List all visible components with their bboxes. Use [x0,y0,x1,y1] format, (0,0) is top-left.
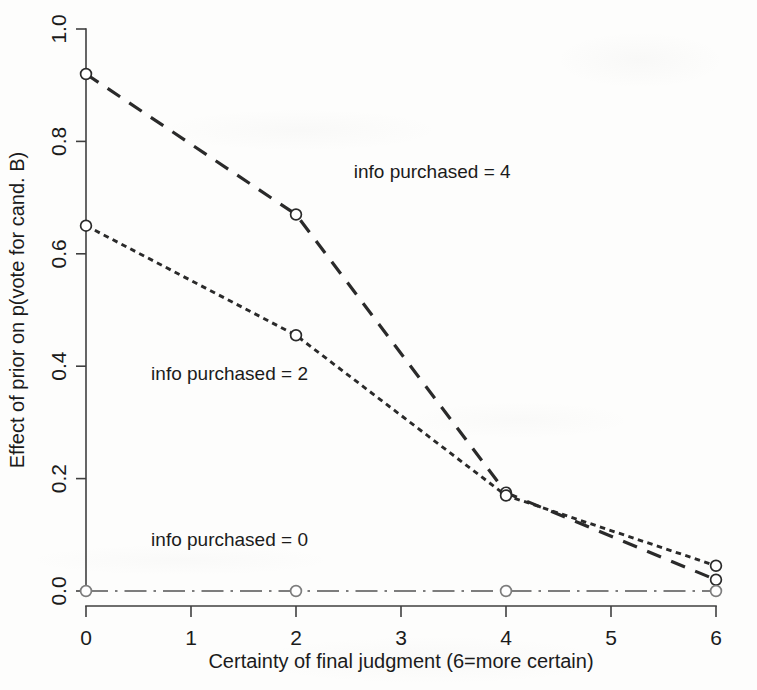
y-tick-label: 0.2 [47,464,70,493]
data-point-marker [81,586,92,597]
series-marker-group [81,69,722,597]
x-tick-label: 5 [605,626,617,649]
data-point-marker [81,220,92,231]
x-axis-title: Certainty of final judgment (6=more cert… [208,650,593,672]
x-tick-label: 1 [185,626,197,649]
data-point-marker [291,586,302,597]
x-axis: 0123456 Certainty of final judgment (6=m… [80,606,722,672]
series-line [86,226,716,566]
x-tick-label: 3 [395,626,407,649]
series-line [86,74,716,580]
data-point-marker [501,586,512,597]
y-tick-label: 1.0 [47,14,70,43]
y-tick-label: 0.6 [47,239,70,268]
data-point-marker [711,586,722,597]
y-tick-label-group: 0.00.20.40.60.81.0 [47,14,70,605]
data-point-marker [81,69,92,80]
data-point-marker [291,330,302,341]
chart-page: 0.00.20.40.60.81.0 Effect of prior on p(… [0,0,757,690]
data-point-marker [291,209,302,220]
y-tick-group [76,29,86,591]
y-tick-label: 0.8 [47,127,70,156]
x-tick-label: 4 [500,626,512,649]
y-tick-label: 0.4 [47,351,70,381]
series-annotation-label: info purchased = 4 [354,161,511,182]
y-axis: 0.00.20.40.60.81.0 Effect of prior on p(… [6,14,86,605]
data-point-marker [501,490,512,501]
data-point-marker [711,574,722,585]
x-tick-label: 0 [80,626,92,649]
series-annotation-label: info purchased = 2 [151,363,308,384]
x-tick-group [86,606,716,617]
x-tick-label: 6 [710,626,722,649]
series-line-group [86,74,716,591]
y-tick-label: 0.0 [47,576,70,605]
y-axis-title: Effect of prior on p(vote for cand. B) [6,152,28,468]
series-label-group: info purchased = 4info purchased = 2info… [151,161,511,550]
x-tick-label: 2 [290,626,302,649]
line-chart: 0.00.20.40.60.81.0 Effect of prior on p(… [0,0,757,690]
series-annotation-label: info purchased = 0 [151,529,308,550]
x-tick-label-group: 0123456 [80,626,722,649]
data-point-marker [711,560,722,571]
